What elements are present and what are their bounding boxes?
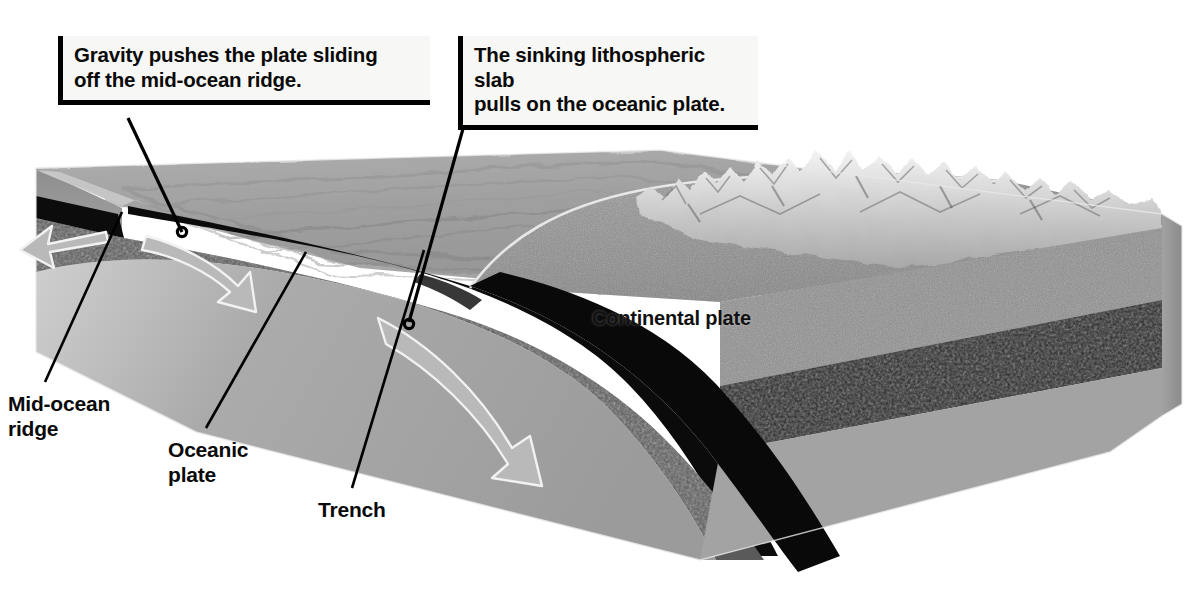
block-diagram-body: [36, 150, 1182, 572]
block-right-end-face: [1162, 214, 1182, 416]
callout-slab-pull: The sinking lithospheric slab pulls on t…: [458, 36, 758, 130]
label-trench: Trench: [318, 498, 386, 523]
figure-canvas: Gravity pushes the plate sliding off the…: [0, 0, 1192, 616]
label-mid-ocean-ridge: Mid-ocean ridge: [8, 392, 110, 442]
callout-ridge-push: Gravity pushes the plate sliding off the…: [58, 36, 430, 105]
label-continental-plate: Continental plate: [592, 307, 751, 330]
label-oceanic-plate: Oceanic plate: [168, 438, 248, 488]
